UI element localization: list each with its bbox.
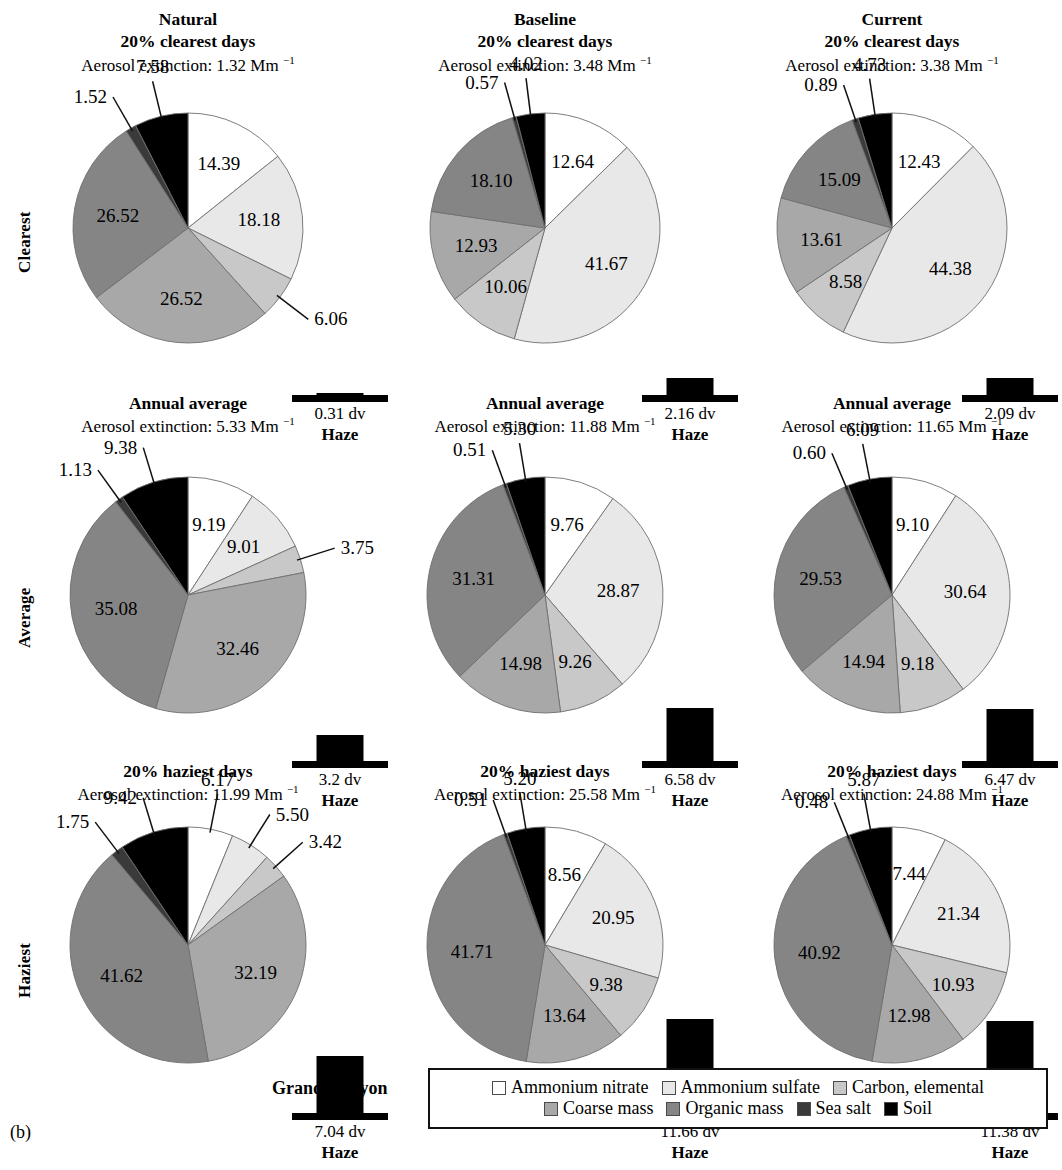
slice-value-label: 12.93 xyxy=(455,235,498,256)
slice-value-label: 7.44 xyxy=(892,863,926,884)
legend-label: Ammonium nitrate xyxy=(511,1077,648,1098)
slice-value-label: 5.30 xyxy=(503,418,536,439)
legend-swatch xyxy=(662,1081,676,1095)
slice-value-label: 12.98 xyxy=(888,1005,931,1026)
slice-value-label: 0.48 xyxy=(795,791,828,812)
legend-item: Ammonium nitrate xyxy=(492,1077,648,1098)
label-leader-line xyxy=(143,448,155,486)
label-leader-line xyxy=(493,800,506,837)
slice-value-label: 41.71 xyxy=(451,941,494,962)
slice-value-label: 9.42 xyxy=(104,787,137,808)
slice-value-label: 32.46 xyxy=(216,638,259,659)
slice-value-label: 0.89 xyxy=(804,74,837,95)
slice-value-label: 14.39 xyxy=(198,153,241,174)
slice-value-label: 9.76 xyxy=(550,514,583,535)
site-label: Grand Canyon xyxy=(272,1078,388,1099)
haze-word: Haze xyxy=(962,1142,1058,1163)
slice-value-label: 35.08 xyxy=(95,598,138,619)
label-leader-line xyxy=(210,794,218,833)
slice-value-label: 13.61 xyxy=(800,229,843,250)
slice-value-label: 9.38 xyxy=(104,437,137,458)
slice-value-label: 1.52 xyxy=(74,86,107,107)
slice-value-label: 32.19 xyxy=(234,962,277,983)
legend-swatch xyxy=(884,1102,898,1116)
legend-swatch xyxy=(544,1102,558,1116)
slice-value-label: 14.98 xyxy=(499,653,542,674)
slice-value-label: 6.09 xyxy=(846,419,879,440)
slice-value-label: 7.58 xyxy=(136,56,169,77)
legend-row-2: Coarse massOrganic massSea saltSoil xyxy=(440,1098,1036,1119)
legend-label: Ammonium sulfate xyxy=(681,1077,820,1098)
slice-value-label: 12.64 xyxy=(551,151,594,172)
legend-swatch xyxy=(833,1081,847,1095)
slice-value-label: 10.06 xyxy=(484,276,527,297)
slice-value-label: 40.92 xyxy=(798,942,841,963)
slice-value-label: 6.17 xyxy=(201,769,234,790)
label-leader-line xyxy=(844,85,857,122)
slice-value-label: 0.60 xyxy=(793,442,826,463)
label-leader-line xyxy=(864,794,871,833)
legend-row-1: Ammonium nitrateAmmonium sulfateCarbon, … xyxy=(440,1077,1036,1098)
legend-swatch xyxy=(492,1081,506,1095)
label-leader-line xyxy=(870,79,876,118)
legend-item: Ammonium sulfate xyxy=(662,1077,820,1098)
legend: Ammonium nitrateAmmonium sulfateCarbon, … xyxy=(428,1068,1048,1129)
slice-value-label: 0.51 xyxy=(454,789,487,810)
label-leader-line xyxy=(98,470,121,502)
slice-value-label: 4.73 xyxy=(853,54,886,75)
slice-value-label: 9.10 xyxy=(896,514,929,535)
legend-label: Organic mass xyxy=(685,1098,783,1119)
figure-caption: (b) xyxy=(10,1122,31,1143)
legend-item: Sea salt xyxy=(797,1098,872,1119)
label-leader-line xyxy=(249,815,270,849)
legend-label: Carbon, elemental xyxy=(852,1077,984,1098)
slice-value-label: 9.38 xyxy=(590,974,623,995)
slice-value-label: 8.58 xyxy=(829,271,862,292)
slice-value-label: 18.18 xyxy=(238,209,281,230)
slice-value-label: 41.67 xyxy=(585,253,628,274)
label-leader-line xyxy=(95,822,119,854)
label-leader-line xyxy=(863,444,871,483)
slice-value-label: 15.09 xyxy=(818,169,861,190)
slice-value-label: 9.01 xyxy=(227,536,260,557)
label-leader-line xyxy=(526,78,531,117)
legend-item: Coarse mass xyxy=(544,1098,653,1119)
slice-value-label: 1.13 xyxy=(59,459,92,480)
slice-value-label: 21.34 xyxy=(937,903,980,924)
legend-item: Soil xyxy=(884,1098,932,1119)
label-leader-line xyxy=(143,798,155,836)
slice-value-label: 1.75 xyxy=(56,811,89,832)
slice-value-label: 5.20 xyxy=(503,768,536,789)
legend-label: Sea salt xyxy=(816,1098,872,1119)
label-leader-line xyxy=(834,802,849,839)
legend-item: Carbon, elemental xyxy=(833,1077,984,1098)
slice-value-label: 0.51 xyxy=(453,439,486,460)
slice-value-label: 31.31 xyxy=(452,568,495,589)
slice-value-label: 9.18 xyxy=(901,653,934,674)
slice-value-label: 14.94 xyxy=(842,651,885,672)
slice-value-label: 8.56 xyxy=(548,864,581,885)
label-leader-line xyxy=(113,97,133,131)
legend-swatch xyxy=(797,1102,811,1116)
slice-value-label: 10.93 xyxy=(932,974,975,995)
slice-value-label: 26.52 xyxy=(160,288,203,309)
slice-value-label: 13.64 xyxy=(543,1005,586,1026)
label-leader-line xyxy=(492,450,506,487)
slice-value-label: 9.19 xyxy=(192,514,225,535)
slice-value-label: 5.87 xyxy=(847,769,880,790)
slice-value-label: 41.62 xyxy=(100,965,143,986)
label-leader-line xyxy=(505,83,516,121)
legend-swatch xyxy=(666,1102,680,1116)
slice-value-label: 9.26 xyxy=(558,651,591,672)
slice-value-label: 0.57 xyxy=(465,72,498,93)
legend-label: Soil xyxy=(903,1098,932,1119)
label-leader-line xyxy=(520,793,527,832)
legend-item: Organic mass xyxy=(666,1098,783,1119)
slice-value-label: 12.43 xyxy=(898,151,941,172)
legend-label: Coarse mass xyxy=(563,1098,653,1119)
label-leader-line xyxy=(832,453,847,489)
label-leader-line xyxy=(153,81,162,119)
slice-value-label: 26.52 xyxy=(96,205,139,226)
slice-value-label: 44.38 xyxy=(929,258,972,279)
